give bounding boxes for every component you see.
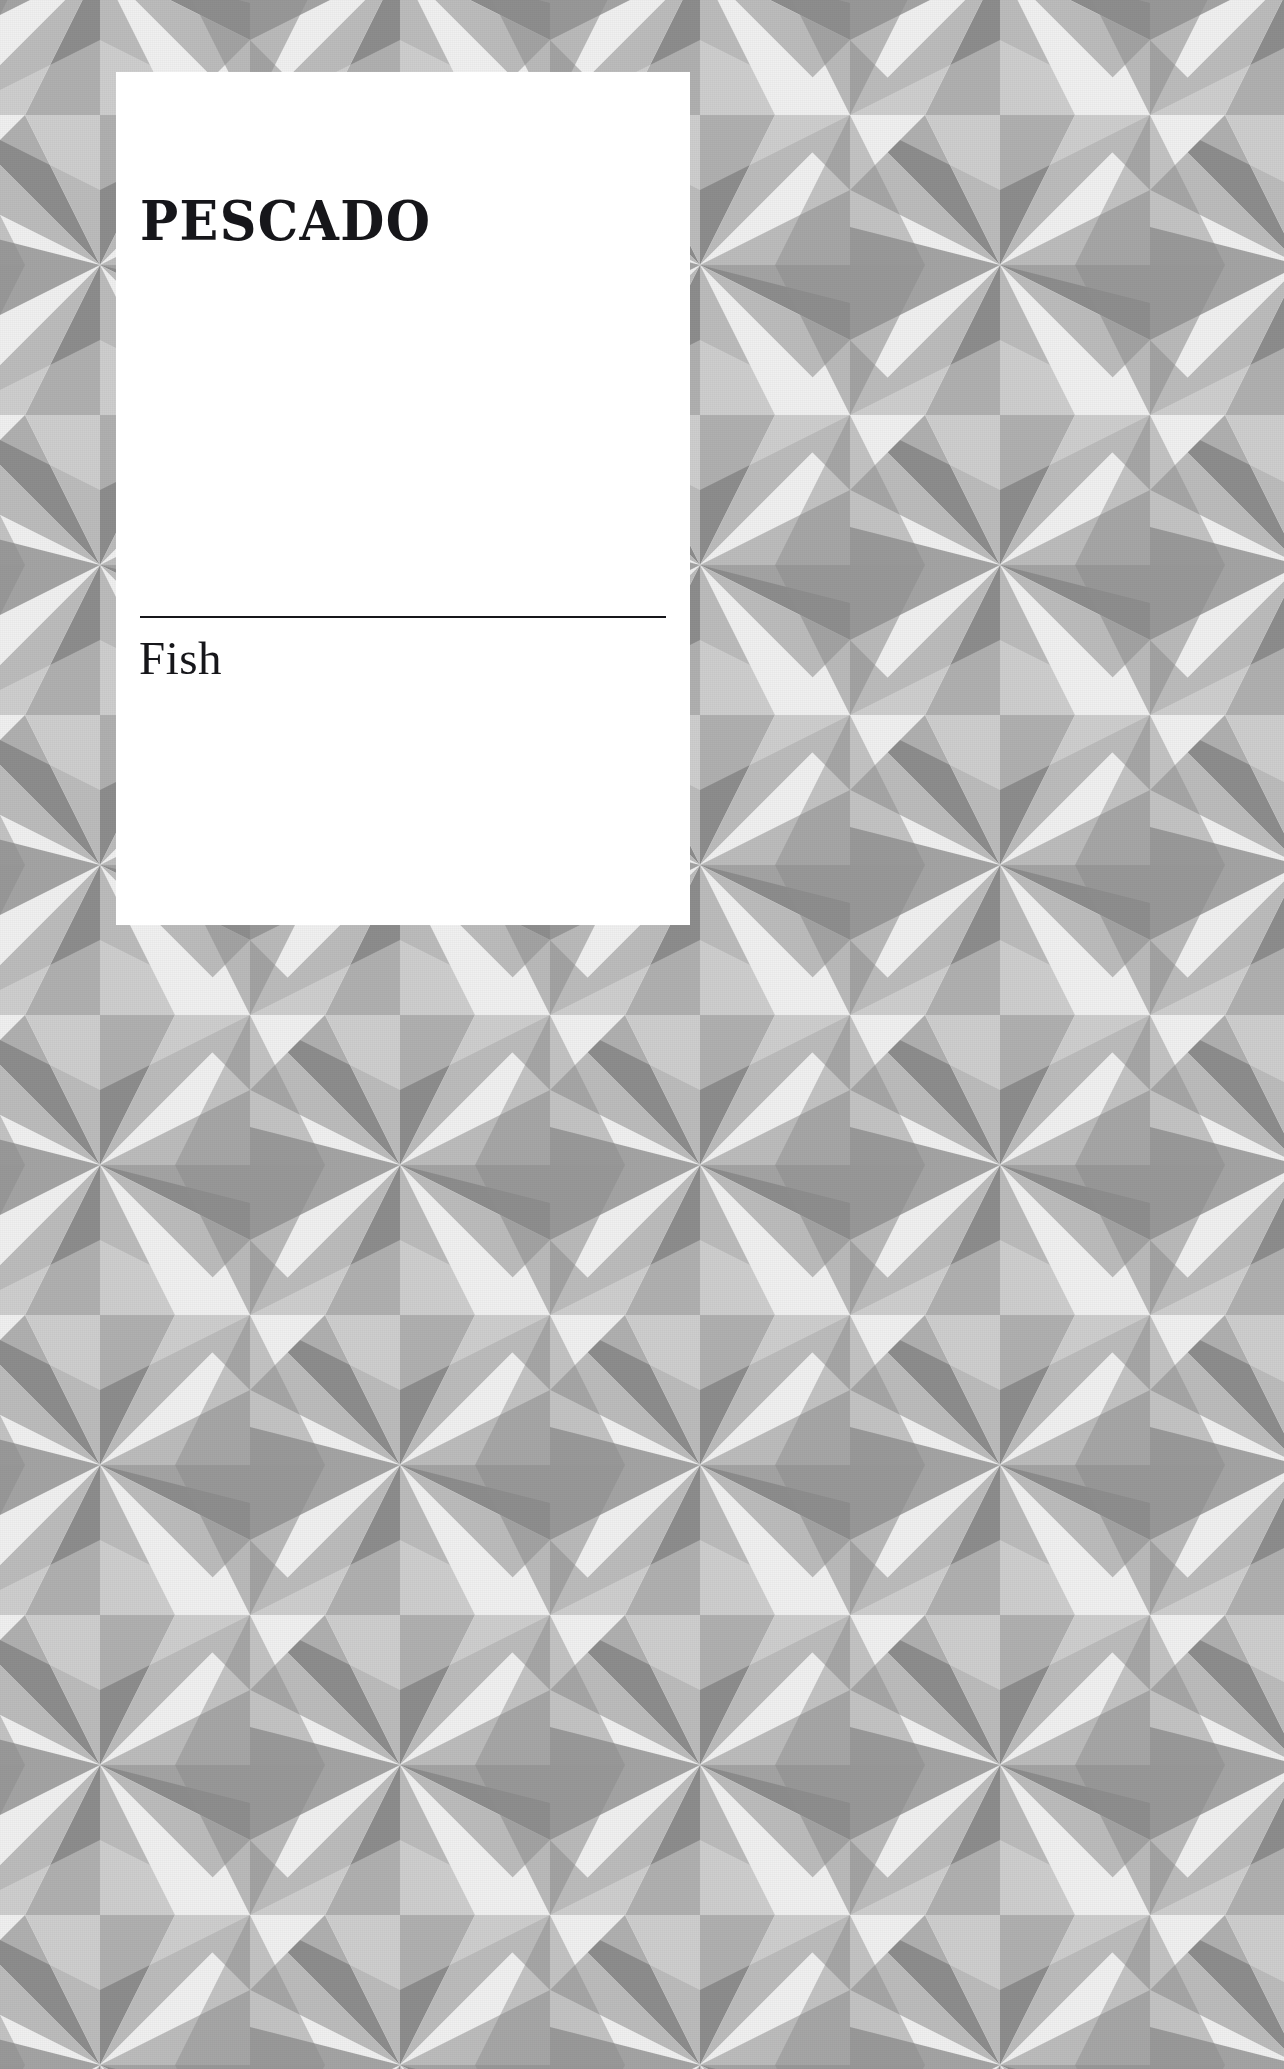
chapter-title-card: PESCADO Fish	[116, 72, 690, 925]
page-subtitle: Fish	[139, 629, 222, 688]
title-divider-rule	[140, 616, 666, 618]
page-title: PESCADO	[140, 194, 431, 248]
divider-page: PESCADO Fish	[0, 0, 1284, 2069]
